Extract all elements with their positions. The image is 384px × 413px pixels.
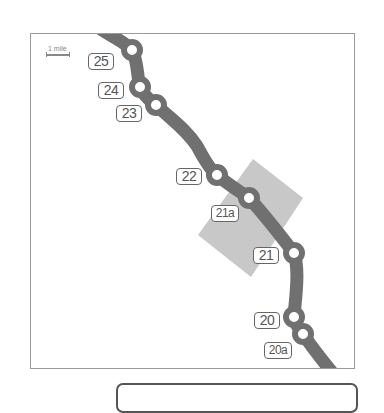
exit-label-22[interactable]: 22 [176,168,202,185]
exit-label-23[interactable]: 23 [116,105,142,122]
interchange-20a [295,326,311,342]
exit-label-20a[interactable]: 20a [264,342,292,359]
info-box [116,383,358,413]
exit-label-24[interactable]: 24 [98,82,124,99]
interchange-21a [241,190,257,206]
exit-label-25[interactable]: 25 [88,53,114,70]
scale-bar [46,54,70,56]
exit-label-20[interactable]: 20 [254,312,280,329]
map-frame: 1 mile 25 24 23 22 21a 21 20 20a [30,33,355,369]
interchange-23 [148,97,164,113]
scale-label: 1 mile [48,45,67,52]
exit-label-21a[interactable]: 21a [211,205,239,222]
interchange-24 [132,79,148,95]
interchange-25 [124,42,140,58]
interchange-22 [209,167,225,183]
interchange-20 [286,309,302,325]
map-graphics [31,34,355,369]
exit-label-21[interactable]: 21 [253,247,279,264]
interchange-21 [286,245,302,261]
